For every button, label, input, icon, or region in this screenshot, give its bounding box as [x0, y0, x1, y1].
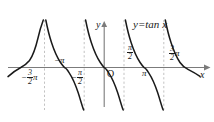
- tangent-graph-figure: y=tan x y x O −32π −π −π2 π2 π 32π: [0, 0, 214, 122]
- y-axis-label: y: [96, 20, 100, 30]
- fraction-three-halves-left: 32: [27, 69, 33, 86]
- fraction-numerator: 3: [27, 69, 33, 77]
- fraction-three-halves-right: 32: [169, 45, 175, 62]
- tick-label-three-halves-pi: 32π: [169, 44, 180, 62]
- fraction-denominator: 2: [169, 53, 175, 62]
- x-axis-label: x: [200, 70, 204, 80]
- chart-title: y=tan x: [133, 19, 167, 30]
- tangent-branch-pi: [125, 20, 163, 110]
- tick-pi-glyph-right: π: [175, 49, 180, 58]
- origin-label: O: [107, 69, 114, 79]
- chart-title-x: x: [162, 18, 167, 30]
- fraction-denominator: 2: [27, 77, 33, 86]
- tangent-plot-canvas: [0, 0, 214, 122]
- tick-label-pi-over-2: π2: [127, 44, 133, 61]
- fraction-denominator: 2: [127, 52, 133, 61]
- tick-label-neg-pi-over-2: −π2: [71, 69, 83, 86]
- tick-label-pi: π: [142, 69, 147, 78]
- tick-label-neg-pi: −π: [54, 56, 65, 65]
- fraction-numerator: π: [77, 69, 83, 77]
- fraction-pi-over-two-right: π2: [127, 44, 133, 61]
- x-axis-arrowhead: [204, 65, 211, 71]
- tangent-branch-neg-pi: [46, 20, 84, 110]
- tick-pi-glyph-left: π: [33, 73, 38, 82]
- chart-title-eq: =tan: [138, 18, 159, 30]
- tick-label-neg-three-halves-pi: −32π: [21, 69, 38, 86]
- fraction-pi-over-two-left: π2: [77, 69, 83, 86]
- y-axis-arrowhead: [101, 21, 107, 27]
- fraction-denominator: 2: [77, 77, 83, 86]
- fraction-numerator: π: [127, 44, 133, 52]
- fraction-numerator: 3: [169, 45, 175, 53]
